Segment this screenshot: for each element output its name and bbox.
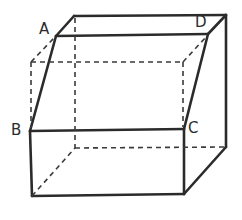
vertex-label-d: D xyxy=(195,15,207,30)
vertex-label-a: A xyxy=(39,22,49,37)
hidden-edge-back-bottom xyxy=(75,147,226,148)
hidden-edges xyxy=(31,18,226,196)
edge-BC xyxy=(30,129,184,131)
hidden-edge-bottom-left-slant xyxy=(32,148,75,196)
edge-top-left-slant xyxy=(56,16,74,36)
edge-front-left xyxy=(30,131,32,196)
edge-AB xyxy=(30,36,56,131)
edge-AD xyxy=(56,34,208,36)
edge-bottom-right-slant xyxy=(184,147,226,194)
edge-top-right-slant xyxy=(208,15,226,34)
visible-edges xyxy=(30,15,226,196)
cube-figure xyxy=(0,0,242,220)
edge-front-bottom xyxy=(32,194,184,196)
cube-diagram: A D B C xyxy=(0,0,242,220)
vertex-label-b: B xyxy=(11,123,21,138)
vertex-label-c: C xyxy=(188,121,198,136)
